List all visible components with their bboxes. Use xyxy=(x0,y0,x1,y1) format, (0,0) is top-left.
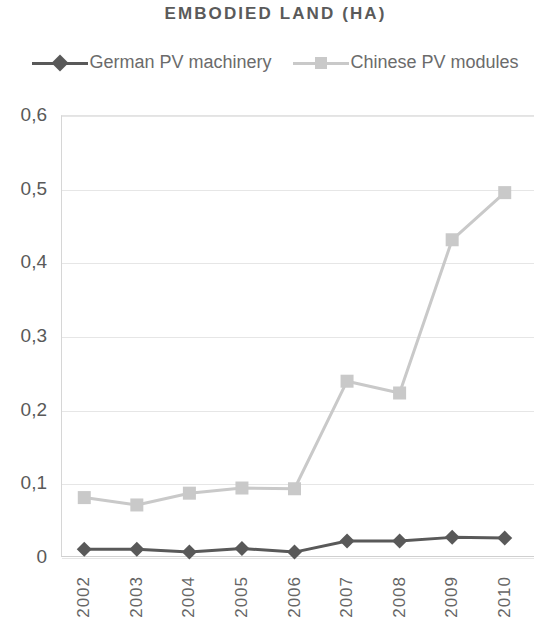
gridline xyxy=(62,558,534,559)
data-point-marker xyxy=(393,386,406,399)
y-axis-tick-label: 0 xyxy=(36,546,47,568)
x-axis-tick-label: 2009 xyxy=(442,576,462,618)
data-point-marker xyxy=(235,482,248,495)
x-axis-tick-label: 2007 xyxy=(337,576,357,618)
series-chinese-pv-modules xyxy=(78,186,511,511)
data-point-marker xyxy=(498,186,511,199)
series-line xyxy=(84,193,504,505)
series-layer xyxy=(62,116,535,558)
y-axis-tick-label: 0,3 xyxy=(21,325,47,347)
y-axis-tick-label: 0,5 xyxy=(21,178,47,200)
data-point-marker xyxy=(392,534,407,549)
data-point-marker xyxy=(78,491,91,504)
data-point-marker xyxy=(340,534,355,549)
y-axis-tick-label: 0,1 xyxy=(21,472,47,494)
data-point-marker xyxy=(288,482,301,495)
data-point-marker xyxy=(287,545,302,560)
data-point-marker xyxy=(341,375,354,388)
y-axis-tick-label: 0,4 xyxy=(21,251,47,273)
y-axis-labels: 00,10,20,30,40,50,6 xyxy=(0,0,55,618)
plot-area xyxy=(61,115,534,557)
data-point-marker xyxy=(445,530,460,545)
data-point-marker xyxy=(497,531,512,546)
data-point-marker xyxy=(183,487,196,500)
data-point-marker xyxy=(77,542,92,557)
x-axis-tick-label: 2010 xyxy=(495,576,515,618)
data-point-marker xyxy=(234,541,249,556)
x-axis-tick-label: 2004 xyxy=(179,576,199,618)
x-axis-tick-label: 2005 xyxy=(232,576,252,618)
y-axis-tick-label: 0,2 xyxy=(21,399,47,421)
x-axis-tick-label: 2003 xyxy=(127,576,147,618)
x-axis-tick-label: 2006 xyxy=(285,576,305,618)
y-axis-tick-label: 0,6 xyxy=(21,104,47,126)
data-point-marker xyxy=(182,545,197,560)
legend-label-german-pv-machinery: German PV machinery xyxy=(89,52,271,73)
chart-title: EMBODIED LAND (HA) xyxy=(0,4,551,24)
data-point-marker xyxy=(130,498,143,511)
x-axis-tick-label: 2002 xyxy=(74,576,94,618)
x-axis-labels: 200220032004200520062007200820092010 xyxy=(61,562,534,618)
data-point-marker xyxy=(446,233,459,246)
legend-key-square-icon xyxy=(293,54,349,72)
legend-entry-chinese-pv-modules: Chinese PV modules xyxy=(293,52,518,73)
chart-legend: German PV machinery Chinese PV modules xyxy=(0,52,551,73)
x-axis-tick-label: 2008 xyxy=(390,576,410,618)
legend-label-chinese-pv-modules: Chinese PV modules xyxy=(350,52,518,73)
embodied-land-chart: EMBODIED LAND (HA) German PV machinery C… xyxy=(0,0,551,618)
data-point-marker xyxy=(129,542,144,557)
series-german-pv-machinery xyxy=(77,530,512,560)
legend-entry-german-pv-machinery: German PV machinery xyxy=(32,52,271,73)
